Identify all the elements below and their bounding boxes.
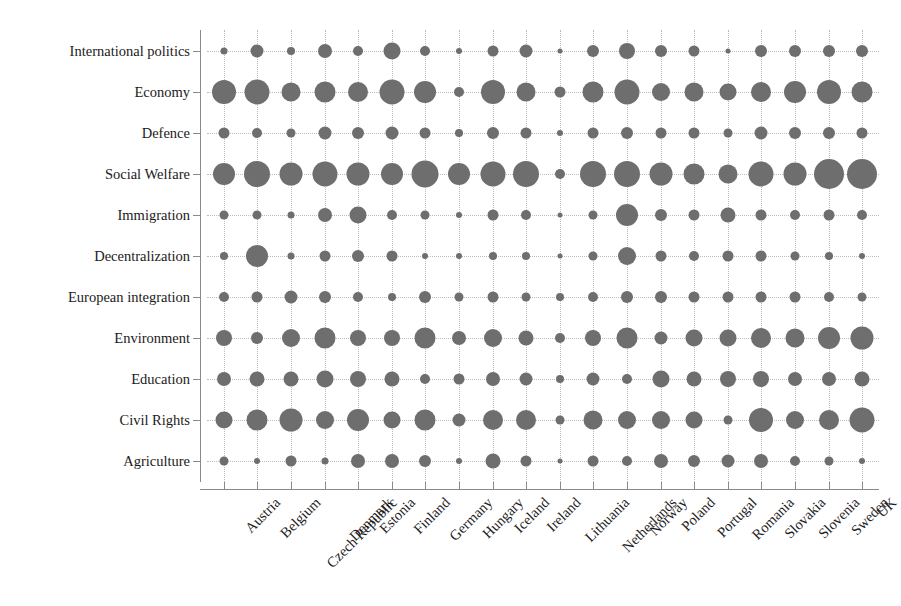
bubble-marker <box>655 251 666 262</box>
bubble-marker <box>420 46 430 56</box>
bubble-marker <box>319 251 330 262</box>
grid-line-horizontal <box>207 92 879 93</box>
bubble-marker <box>250 372 265 387</box>
bubble-marker <box>347 409 369 431</box>
bubble-marker <box>386 251 397 262</box>
x-axis-tick <box>728 482 729 489</box>
bubble-marker <box>587 45 599 57</box>
x-axis-labels: AustriaBelgiumCzech RepublicDenmarkEston… <box>0 495 901 606</box>
bubble-marker <box>583 81 604 102</box>
y-axis-tick <box>193 215 200 216</box>
bubble-marker <box>522 293 531 302</box>
bubble-marker <box>755 45 767 57</box>
bubble-marker <box>347 162 370 185</box>
bubble-marker <box>588 456 599 467</box>
bubble-marker <box>851 327 874 350</box>
bubble-marker <box>284 372 299 387</box>
bubble-marker <box>825 252 833 260</box>
bubble-marker <box>557 48 562 53</box>
bubble-marker <box>212 80 236 104</box>
bubble-marker <box>454 374 465 385</box>
bubble-marker <box>280 162 303 185</box>
bubble-marker <box>487 209 498 220</box>
bubble-marker <box>580 161 606 187</box>
bubble-marker <box>589 210 598 219</box>
bubble-marker <box>789 45 801 57</box>
bubble-marker <box>448 163 470 185</box>
bubble-marker <box>246 245 268 267</box>
bubble-marker <box>722 251 733 262</box>
y-axis-tick <box>193 338 200 339</box>
y-axis-tick-label: Social Welfare <box>105 167 190 182</box>
bubble-marker <box>215 412 232 429</box>
bubble-marker <box>655 127 666 138</box>
grid-line-horizontal <box>207 133 879 134</box>
bubble-marker <box>486 372 500 386</box>
y-axis-tick-label: Environment <box>114 331 190 346</box>
bubble-marker <box>687 372 702 387</box>
bubble-marker <box>655 209 667 221</box>
bubble-marker <box>456 48 462 54</box>
bubble-marker <box>318 208 332 222</box>
x-axis-tick <box>291 482 292 489</box>
grid-line-horizontal <box>207 174 879 175</box>
bubble-marker <box>220 252 228 260</box>
x-axis-tick <box>392 482 393 489</box>
bubble-marker <box>617 328 638 349</box>
bubble-marker <box>621 127 633 139</box>
x-axis-tick-label: Finland <box>411 495 453 537</box>
bubble-marker <box>351 454 365 468</box>
bubble-marker <box>751 82 771 102</box>
bubble-marker <box>718 164 737 183</box>
bubble-marker <box>584 411 603 430</box>
bubble-marker <box>654 454 668 468</box>
x-axis-tick-label: Ireland <box>544 495 583 534</box>
y-axis-tick <box>193 461 200 462</box>
bubble-marker <box>615 79 640 104</box>
x-axis-tick <box>493 482 494 489</box>
bubble-marker <box>319 291 331 303</box>
bubble-marker <box>555 416 564 425</box>
bubble-marker <box>721 455 734 468</box>
bubble-marker <box>487 292 498 303</box>
y-axis-tick-label: Decentralization <box>94 249 190 264</box>
bubble-marker <box>685 82 704 101</box>
bubble-marker <box>857 127 868 138</box>
bubble-marker <box>819 410 839 430</box>
bubble-marker <box>858 293 867 302</box>
bubble-marker <box>556 375 564 383</box>
bubble-marker <box>719 330 736 347</box>
bubble-marker <box>219 292 229 302</box>
bubble-marker <box>790 210 800 220</box>
x-axis-tick <box>358 482 359 489</box>
x-axis-tick <box>526 482 527 489</box>
bubble-marker <box>414 81 436 103</box>
bubble-marker <box>350 206 367 223</box>
bubble-marker <box>622 374 632 384</box>
bubble-marker <box>350 330 366 346</box>
bubble-marker <box>725 48 730 53</box>
bubble-marker <box>557 459 562 464</box>
bubble-marker <box>859 253 865 259</box>
bubble-marker <box>420 374 430 384</box>
bubble-marker <box>850 408 875 433</box>
bubble-marker <box>618 411 636 429</box>
bubble-marker <box>823 209 834 220</box>
bubble-marker <box>784 162 807 185</box>
x-axis-tick <box>862 482 863 489</box>
bubble-marker <box>652 411 670 429</box>
bubble-marker <box>244 161 270 187</box>
bubble-marker <box>485 454 500 469</box>
x-axis-tick <box>694 482 695 489</box>
bubble-marker <box>379 79 404 104</box>
bubble-marker <box>621 291 633 303</box>
x-axis-tick <box>661 482 662 489</box>
bubble-marker <box>314 328 335 349</box>
bubble-marker <box>487 127 499 139</box>
bubble-marker <box>453 414 466 427</box>
y-axis-tick-label: International politics <box>70 43 190 58</box>
bubble-marker <box>720 207 735 222</box>
bubble-marker <box>384 372 399 387</box>
bubble-marker <box>749 408 773 432</box>
bubble-marker <box>213 163 235 185</box>
